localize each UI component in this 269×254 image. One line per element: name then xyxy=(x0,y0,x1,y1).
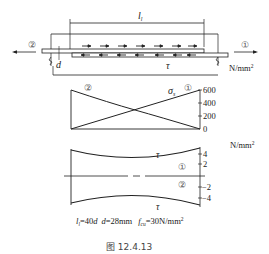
break-mark-left-icon xyxy=(49,57,52,65)
tick-400: 400 xyxy=(203,98,216,108)
shear-label: τ xyxy=(166,60,170,71)
shear-curve-bar-2 xyxy=(71,195,200,205)
sigma-label: σs xyxy=(168,85,176,97)
bar-detail: ll d xyxy=(12,10,258,75)
diameter-label: d xyxy=(56,59,62,70)
shear-unit-label: N/mm2 xyxy=(230,140,255,150)
tick-neg-4: −4 xyxy=(202,193,212,203)
region-1-label: ① xyxy=(178,162,186,172)
tick-neg-2: −2 xyxy=(202,182,211,192)
bar-1 xyxy=(72,53,228,57)
tau-top-label: τ xyxy=(156,150,160,160)
break-mark-right-icon xyxy=(216,57,219,65)
shear-curve-bar-1 xyxy=(71,148,200,158)
parameters-caption: ll=40dd=28mmfcu=30N/mm2 xyxy=(76,216,184,227)
tau-bottom-label: τ xyxy=(156,202,160,212)
region-2-label: ② xyxy=(178,180,186,190)
tick-4: 4 xyxy=(203,149,208,159)
tick-2: 2 xyxy=(203,159,207,169)
stress-bar-1-label: ① xyxy=(184,83,192,93)
stress-chart: 600 400 200 0 ② σs ① xyxy=(71,83,216,134)
tick-200: 200 xyxy=(203,111,216,121)
figure-label: 图 12.4.13 xyxy=(106,242,152,252)
shear-chart: N/mm2 4 2 −2 −4 τ τ ① ② xyxy=(64,140,255,212)
bar-1-label: ① xyxy=(241,40,249,50)
unit-label: N/mm2 xyxy=(229,63,254,73)
lap-length-label: ll xyxy=(138,10,143,22)
bar-2 xyxy=(42,49,204,53)
tick-0: 0 xyxy=(203,124,207,134)
stress-bar-2-label: ② xyxy=(84,83,92,93)
tick-600: 600 xyxy=(203,85,216,95)
bond-arrows-top xyxy=(82,45,197,47)
lap-splice-diagram: ll d xyxy=(0,0,269,254)
bar-2-label: ② xyxy=(28,40,36,50)
